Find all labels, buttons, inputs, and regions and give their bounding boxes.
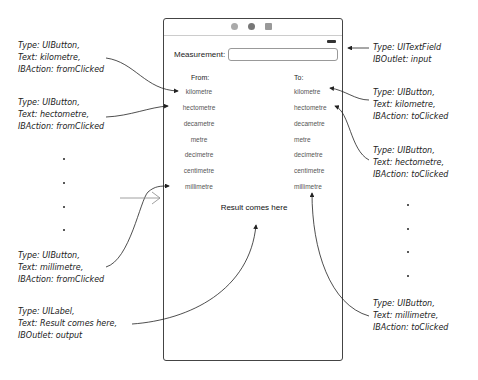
annotation-line: Type: UIButton, (373, 145, 448, 157)
annotation-to-kilometre: Type: UIButton, Text: kilometre, IBActio… (373, 87, 448, 123)
annotation-line: Text: kilometre, (18, 52, 104, 64)
from-button-decimetre[interactable]: decimetre (164, 151, 234, 158)
ellipsis-dot (407, 251, 409, 253)
from-button-metre[interactable]: metre (164, 136, 234, 143)
to-button-metre[interactable]: metre (294, 136, 311, 143)
ellipsis-dot (63, 229, 65, 231)
from-button-hectometre[interactable]: hectometre (164, 104, 234, 111)
annotation-line: Type: UIButton, (373, 87, 448, 99)
annotation-line: IBOutlet: input (373, 54, 441, 66)
annotation-line: IBAction: fromClicked (18, 121, 104, 133)
annotation-line: Text: kilometre, (373, 99, 448, 111)
annotation-to-hectometre: Type: UIButton, Text: hectometre, IBActi… (373, 145, 448, 181)
from-button-centimetre[interactable]: centimetre (164, 167, 234, 174)
square-icon (265, 23, 272, 30)
ellipsis-dot (407, 204, 409, 206)
battery-icon (327, 40, 336, 43)
annotation-line: Type: UILabel, (18, 306, 117, 318)
annotation-line: Type: UIButton, (373, 298, 448, 310)
ellipsis-dot (63, 182, 65, 184)
ellipsis-dot (63, 158, 65, 160)
annotation-line: Text: Result comes here, (18, 318, 117, 330)
annotation-line: Type: UITextField (373, 42, 441, 54)
ellipsis-dot (407, 228, 409, 230)
ellipsis-dot (63, 206, 65, 208)
annotation-line: IBAction: toClicked (373, 322, 448, 334)
annotation-line: Type: UIButton, (18, 97, 104, 109)
annotation-from-millimetre: Type: UIButton, Text: millimetre, IBActi… (18, 250, 104, 286)
annotation-line: IBAction: fromClicked (18, 64, 104, 76)
to-header: To: (294, 74, 303, 81)
result-label: Result comes here (164, 203, 344, 212)
to-button-decametre[interactable]: decametre (294, 120, 325, 127)
annotation-line: Type: UIButton, (18, 250, 104, 262)
annotation-to-millimetre: Type: UIButton, Text: millimetre, IBActi… (373, 298, 448, 334)
to-button-hectometre[interactable]: hectometre (294, 104, 327, 111)
phone-screen: Measurement: From: To: kilometre hectome… (163, 18, 343, 361)
annotation-from-kilometre: Type: UIButton, Text: kilometre, IBActio… (18, 40, 104, 76)
circle-icon (231, 23, 238, 30)
annotation-line: Text: millimetre, (18, 262, 104, 274)
annotation-line: IBAction: toClicked (373, 111, 448, 123)
measurement-input[interactable] (228, 48, 338, 61)
annotation-line: IBAction: fromClicked (18, 274, 104, 286)
annotation-line: Text: millimetre, (373, 310, 448, 322)
annotation-line: IBOutlet: output (18, 330, 117, 342)
to-button-millimetre[interactable]: millimetre (294, 183, 322, 190)
annotation-line: IBAction: toClicked (373, 169, 448, 181)
ellipsis-dot (407, 275, 409, 277)
from-button-kilometre[interactable]: kilometre (164, 88, 234, 95)
annotation-line: Text: hectometre, (18, 109, 104, 121)
to-button-kilometre[interactable]: kilometre (294, 88, 320, 95)
gear-circle-icon (248, 23, 255, 30)
to-button-centimetre[interactable]: centimetre (294, 167, 324, 174)
from-button-decametre[interactable]: decametre (164, 120, 234, 127)
to-button-decimetre[interactable]: decimetre (294, 151, 323, 158)
measurement-label: Measurement: (174, 50, 225, 59)
from-button-millimetre[interactable]: millimetre (164, 183, 234, 190)
annotation-input-field: Type: UITextField IBOutlet: input (373, 42, 441, 66)
top-bar (164, 19, 342, 36)
annotation-line: Type: UIButton, (18, 40, 104, 52)
from-header: From: (191, 74, 209, 81)
annotation-result-label: Type: UILabel, Text: Result comes here, … (18, 306, 117, 342)
annotation-from-hectometre: Type: UIButton, Text: hectometre, IBActi… (18, 97, 104, 133)
annotation-line: Text: hectometre, (373, 157, 448, 169)
